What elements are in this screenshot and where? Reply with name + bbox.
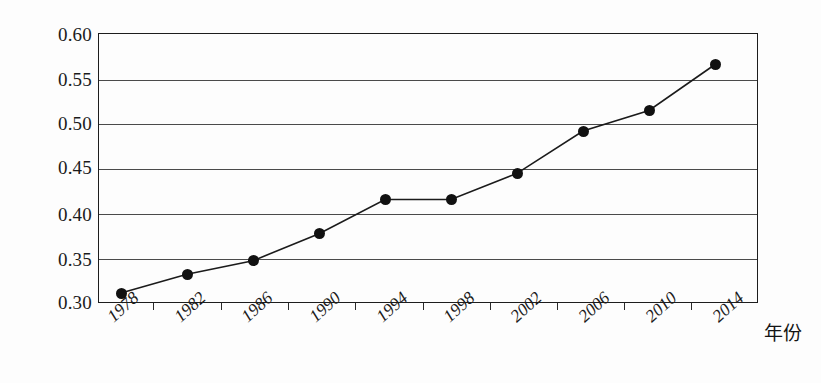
data-point-marker (644, 105, 655, 116)
data-point-marker (248, 255, 259, 266)
x-tick-mark-5 (423, 303, 424, 310)
x-tick-mark-1 (153, 303, 154, 310)
data-point-marker (578, 126, 589, 137)
data-point-marker (446, 194, 457, 205)
x-tick-mark-9 (691, 303, 692, 310)
data-point-marker (116, 288, 127, 299)
x-axis-title: 年份 (764, 318, 802, 345)
x-tick-mark-8 (624, 303, 625, 310)
y-tick-label-0-60: 0.60 (36, 24, 92, 46)
plot-area-frame (98, 33, 758, 303)
chart-page: 0.60 0.55 0.50 0.45 0.40 0.35 0.30 1978 … (0, 0, 821, 383)
y-tick-label-0-50: 0.50 (36, 113, 92, 135)
y-tick-label-0-40: 0.40 (36, 204, 92, 226)
x-tick-mark-4 (355, 303, 356, 310)
x-tick-mark-2 (221, 303, 222, 310)
y-tick-label-0-55: 0.55 (36, 69, 92, 91)
line-chart-figure: 0.60 0.55 0.50 0.45 0.40 0.35 0.30 1978 … (0, 0, 821, 383)
y-tick-label-0-35: 0.35 (36, 249, 92, 271)
data-point-marker (380, 194, 391, 205)
data-point-marker (512, 168, 523, 179)
data-point-marker (710, 59, 721, 70)
y-tick-label-0-30: 0.30 (36, 292, 92, 314)
y-tick-label-0-45: 0.45 (36, 157, 92, 179)
x-tick-mark-7 (557, 303, 558, 310)
y-axis-tick-labels: 0.60 0.55 0.50 0.45 0.40 0.35 0.30 (30, 0, 92, 383)
data-point-marker (314, 228, 325, 239)
x-tick-mark-6 (490, 303, 491, 310)
data-point-marker (182, 269, 193, 280)
x-tick-mark-3 (288, 303, 289, 310)
